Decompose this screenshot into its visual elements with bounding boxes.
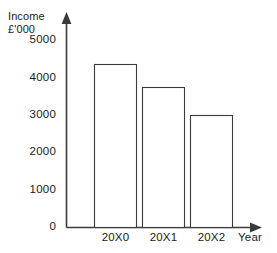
y-tick-label-group: 5000 4000 3000 2000 1000 0 <box>8 0 56 253</box>
x-tick-label: 20X2 <box>189 231 234 244</box>
bar-20x1 <box>143 88 185 228</box>
y-tick-label: 4000 <box>8 72 56 84</box>
y-tick-label: 3000 <box>8 109 56 121</box>
y-axis-arrow-icon <box>62 12 72 24</box>
x-tick-label: 20X0 <box>93 231 138 244</box>
x-tick-label: 20X1 <box>141 231 186 244</box>
x-axis-title: Year <box>238 231 262 244</box>
bar-20x0 <box>95 65 137 228</box>
y-tick-label: 2000 <box>8 146 56 158</box>
y-tick-label: 5000 <box>8 34 56 46</box>
bar-chart-figure: Income £'000 5000 4000 3000 2000 1000 0 … <box>0 0 277 253</box>
y-tick-label: 1000 <box>8 184 56 196</box>
bar-20x2 <box>191 116 233 228</box>
x-tick-label-group: 20X0 20X1 20X2 <box>0 231 277 249</box>
